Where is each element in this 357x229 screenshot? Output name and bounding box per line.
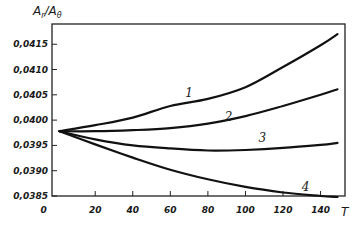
curve-label-4: 4 [301,180,310,194]
line-chart: 0,03850,03900,03950,04000,04050,04100,04… [0,0,357,229]
y-axis-ticks: 0,03850,03900,03950,04000,04050,04100,04… [13,39,57,201]
x-tick-label: 80 [202,205,215,215]
curve-1 [60,34,338,131]
y-tick-label: 0,0405 [13,90,48,100]
curve-label-3: 3 [259,131,267,145]
x-tick-label: 140 [311,205,330,215]
x-tick-label: 20 [89,205,102,215]
x-tick-label: 0 [41,205,47,215]
x-axis-title: T [341,205,350,219]
x-tick-label: 40 [125,205,139,215]
y-tick-label: 0,0400 [13,115,48,125]
curves [60,34,338,197]
plot-frame [52,24,345,196]
y-tick-label: 0,0390 [13,166,48,176]
y-tick-label: 0,0415 [13,39,48,49]
y-axis-title: Ar/Aθ [32,4,62,20]
y-tick-label: 0,0410 [13,65,48,75]
y-tick-label: 0,0395 [13,140,48,150]
curve-label-1: 1 [185,86,193,100]
x-tick-label: 100 [236,205,255,215]
curve-label-2: 2 [224,110,233,124]
x-axis-ticks: 020406080100120140 [41,191,330,215]
x-tick-label: 60 [164,205,177,215]
x-tick-label: 120 [274,205,293,215]
y-tick-label: 0,0385 [13,191,48,201]
